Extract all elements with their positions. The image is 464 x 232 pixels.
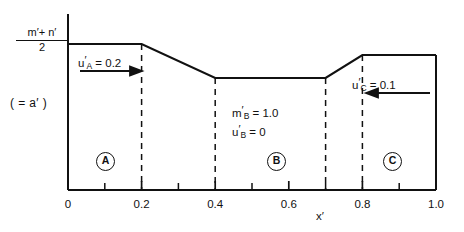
region-tag-b: B — [267, 152, 286, 171]
region-a-velocity-label: u′A = 0.2 — [78, 54, 121, 71]
region-b-properties: m′B = 1.0 u′B = 0 — [232, 103, 278, 142]
region-b-mass-subscript: B — [244, 111, 250, 121]
region-c-velocity-label: u′C = 0.1 — [352, 76, 396, 93]
x-tick-label-0p8: 0.8 — [354, 198, 370, 210]
x-axis-title: x′ — [316, 210, 324, 222]
x-tick-label-0p2: 0.2 — [134, 198, 150, 210]
region-b-mass-value: = 1.0 — [253, 107, 279, 119]
y-axis-label-alt: ( = a′ ) — [10, 96, 47, 110]
region-b-mass-label: m′B = 1.0 — [232, 103, 278, 122]
region-b-mass-var: m — [232, 107, 242, 119]
region-a-velocity-value: = 0.2 — [95, 57, 121, 69]
region-b-velocity-subscript: B — [240, 130, 246, 140]
x-axis-minor-ticks — [105, 183, 399, 190]
region-b-velocity-value: = 0 — [249, 126, 265, 138]
region-c-velocity-subscript: C — [360, 83, 366, 93]
region-tag-c: C — [383, 152, 402, 171]
x-tick-label-0: 0 — [65, 198, 71, 210]
x-tick-label-1p0: 1.0 — [428, 198, 444, 210]
region-b-velocity-label: u′B = 0 — [232, 122, 278, 141]
region-tag-a: A — [96, 152, 115, 171]
y-axis-label-fraction: m′+ n′ 2 — [16, 27, 68, 54]
figure-canvas: m′+ n′ 2 ( = a′ ) u′A = 0.2 u′C = 0.1 m′… — [0, 0, 464, 232]
y-axis-label-denominator: 2 — [16, 41, 68, 54]
region-a-velocity-subscript: A — [86, 61, 92, 71]
region-c-velocity-value: = 0.1 — [370, 79, 396, 91]
x-tick-label-0p6: 0.6 — [281, 198, 297, 210]
y-axis-label-numerator: m′+ n′ — [16, 27, 68, 41]
profile-curve — [68, 44, 436, 78]
x-tick-label-0p4: 0.4 — [207, 198, 223, 210]
